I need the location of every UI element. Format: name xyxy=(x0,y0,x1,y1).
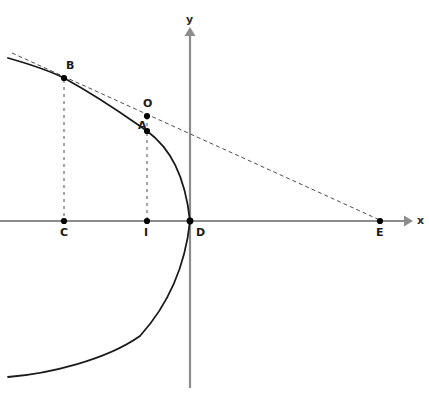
point-label-C: C xyxy=(60,227,68,238)
x-axis-label: x xyxy=(417,215,424,226)
geometry-canvas xyxy=(0,0,429,401)
x-axis-arrow-icon xyxy=(404,216,413,227)
geometry-figure: B O A C I D E y x xyxy=(0,0,429,401)
axes-group xyxy=(0,27,413,388)
y-axis-label: y xyxy=(186,14,193,25)
parabola-curve-group xyxy=(8,58,190,377)
y-axis-arrow-icon xyxy=(185,27,196,36)
point-label-I: I xyxy=(144,227,148,238)
point-label-D: D xyxy=(196,227,205,238)
point-label-E: E xyxy=(376,227,384,238)
tangent-line xyxy=(12,53,382,221)
point-label-B: B xyxy=(66,60,74,71)
point-label-O: O xyxy=(143,98,152,109)
parabola-curve xyxy=(8,58,190,377)
point-marker-I[interactable] xyxy=(144,218,150,224)
point-marker-E[interactable] xyxy=(377,218,383,224)
point-label-A: A xyxy=(138,120,147,131)
tangent-line-group xyxy=(12,53,382,221)
point-marker-B[interactable] xyxy=(61,75,67,81)
droplines-group xyxy=(64,80,147,219)
point-marker-D[interactable] xyxy=(187,218,194,225)
point-marker-C[interactable] xyxy=(61,218,67,224)
